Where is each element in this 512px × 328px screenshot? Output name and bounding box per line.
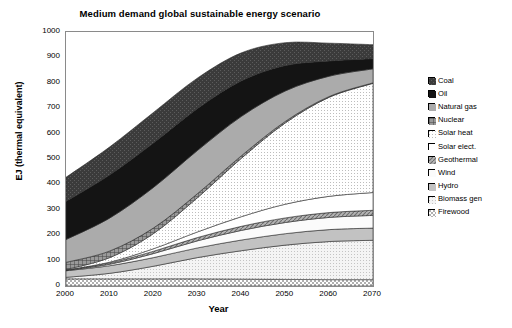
legend-swatch-icon bbox=[428, 169, 435, 176]
x-tick-label: 2070 bbox=[352, 289, 392, 298]
legend-item-label: Nuclear bbox=[438, 116, 464, 124]
legend-swatch-icon bbox=[428, 103, 435, 110]
chart-root: Medium demand global sustainable energy … bbox=[0, 0, 512, 328]
legend-item[interactable]: Wind bbox=[428, 166, 512, 179]
legend-item[interactable]: Coal bbox=[428, 74, 512, 87]
legend-item[interactable]: Oil bbox=[428, 87, 512, 100]
legend-swatch-icon bbox=[428, 130, 435, 137]
legend-item-label: Solar heat bbox=[438, 129, 473, 137]
legend-item[interactable]: Natural gas bbox=[428, 100, 512, 113]
legend-item[interactable]: Firewood bbox=[428, 206, 512, 219]
chart-legend: CoalOilNatural gasNuclearSolar heatSolar… bbox=[428, 74, 512, 219]
y-tick-label: 400 bbox=[26, 179, 60, 187]
y-tick-label: 800 bbox=[26, 78, 60, 86]
y-tick-label: 100 bbox=[26, 256, 60, 264]
legend-item[interactable]: Nuclear bbox=[428, 114, 512, 127]
y-tick-label: 600 bbox=[26, 129, 60, 137]
legend-swatch-icon bbox=[428, 156, 435, 163]
legend-swatch-icon bbox=[428, 196, 435, 203]
y-tick-label: 500 bbox=[26, 154, 60, 162]
legend-item[interactable]: Hydro bbox=[428, 180, 512, 193]
legend-item[interactable]: Solar elect. bbox=[428, 140, 512, 153]
x-tick-label: 2060 bbox=[308, 289, 348, 298]
y-tick-label: 900 bbox=[26, 52, 60, 60]
legend-item-label: Coal bbox=[438, 77, 454, 85]
y-tick-label: 700 bbox=[26, 103, 60, 111]
x-axis-label: Year bbox=[65, 303, 372, 314]
y-axis-ticks: 01002003004005006007008009001000 bbox=[22, 0, 60, 328]
legend-item-label: Wind bbox=[438, 169, 455, 177]
y-tick-label: 200 bbox=[26, 230, 60, 238]
legend-swatch-icon bbox=[428, 183, 435, 190]
y-tick-label: 300 bbox=[26, 205, 60, 213]
legend-item-label: Firewood bbox=[438, 208, 469, 216]
y-tick-label: 1000 bbox=[26, 27, 60, 35]
legend-item-label: Biomass gen bbox=[438, 195, 482, 203]
x-tick-label: 2020 bbox=[133, 289, 173, 298]
x-tick-label: 2050 bbox=[264, 289, 304, 298]
y-tick-label: 0 bbox=[26, 281, 60, 289]
legend-item-label: Natural gas bbox=[438, 103, 477, 111]
stacked-area-svg bbox=[66, 32, 373, 286]
legend-swatch-icon bbox=[428, 77, 435, 84]
x-tick-label: 2040 bbox=[220, 289, 260, 298]
legend-item[interactable]: Solar heat bbox=[428, 127, 512, 140]
legend-item-label: Geothermal bbox=[438, 156, 478, 164]
area-band bbox=[66, 279, 373, 286]
legend-swatch-icon bbox=[428, 90, 435, 97]
legend-item-label: Solar elect. bbox=[438, 143, 476, 151]
legend-swatch-icon bbox=[428, 209, 435, 216]
legend-item[interactable]: Biomass gen bbox=[428, 193, 512, 206]
x-tick-label: 2010 bbox=[89, 289, 129, 298]
x-tick-label: 2030 bbox=[177, 289, 217, 298]
legend-item-label: Hydro bbox=[438, 182, 458, 190]
legend-swatch-icon bbox=[428, 143, 435, 150]
y-axis-label: EJ (thermal equivalent) bbox=[14, 51, 24, 211]
legend-item-label: Oil bbox=[438, 90, 447, 98]
chart-title: Medium demand global sustainable energy … bbox=[0, 8, 400, 19]
plot-area bbox=[65, 31, 374, 287]
x-tick-label: 2000 bbox=[45, 289, 85, 298]
legend-item[interactable]: Geothermal bbox=[428, 153, 512, 166]
legend-swatch-icon bbox=[428, 117, 435, 124]
